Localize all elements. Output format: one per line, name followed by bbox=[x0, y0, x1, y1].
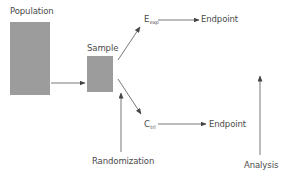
sample-to-control-arrow bbox=[118, 79, 141, 114]
diagram-arrows bbox=[0, 0, 286, 178]
sample-to-experimental-arrow bbox=[118, 27, 140, 60]
